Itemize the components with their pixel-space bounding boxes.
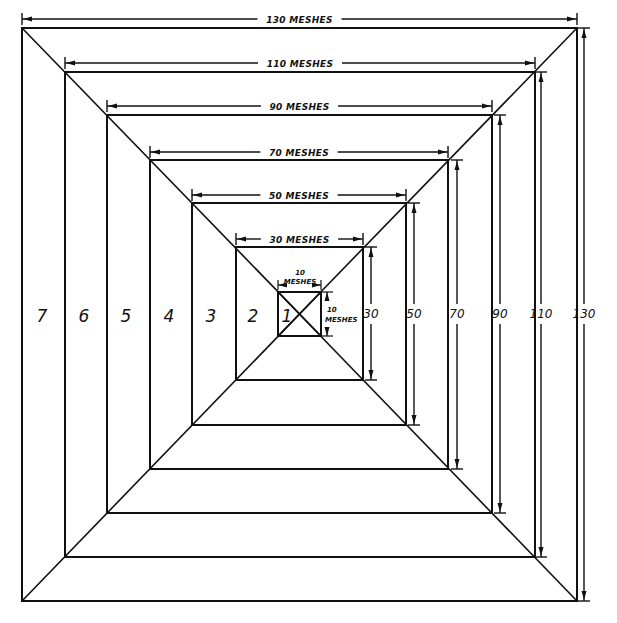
- zone-label-5: 5: [121, 306, 132, 326]
- side-dimension-label: 90: [492, 307, 508, 321]
- arrowhead-icon: [539, 547, 544, 556]
- arrowhead-icon: [353, 237, 362, 242]
- zone-label-7: 7: [37, 306, 48, 326]
- side-dimension-90: 90: [492, 115, 508, 513]
- arrowhead-icon: [23, 17, 32, 22]
- top-dimension-110: 110 MESHES: [65, 57, 535, 69]
- mesh-zones-diagram: 130 MESHES110 MESHES90 MESHES70 MESHES50…: [0, 0, 617, 623]
- side-dimension-label: 130: [573, 307, 596, 321]
- side-dimension-label: 110: [530, 307, 553, 321]
- zone-label-4: 4: [164, 306, 175, 326]
- inner-top-dim-number: 10: [295, 269, 305, 277]
- arrowhead-icon: [369, 370, 374, 379]
- zone-label-3: 3: [206, 306, 217, 326]
- top-dimension-130: 130 MESHES: [22, 13, 577, 25]
- arrowhead-icon: [498, 503, 503, 512]
- arrowhead-icon: [151, 150, 160, 155]
- side-dimension-label: 50: [406, 307, 422, 321]
- inner-side-dim-unit: MESHES: [325, 316, 357, 324]
- arrowhead-icon: [396, 193, 405, 198]
- top-width-dimensions: 130 MESHES110 MESHES90 MESHES70 MESHES50…: [22, 13, 577, 245]
- top-dimension-70: 70 MESHES: [150, 146, 448, 158]
- side-height-dimensions: 30507090110130: [363, 28, 595, 601]
- zone-number-labels: 7654321: [37, 306, 293, 326]
- top-dimension-label: 90 MESHES: [269, 102, 329, 112]
- arrowhead-icon: [412, 415, 417, 424]
- arrowhead-icon: [455, 459, 460, 468]
- arrowhead-icon: [539, 73, 544, 82]
- top-dimension-90: 90 MESHES: [107, 100, 492, 112]
- side-dimension-label: 70: [449, 307, 465, 321]
- arrowhead-icon: [525, 61, 534, 66]
- arrowhead-icon: [455, 161, 460, 170]
- inner-top-dim-unit: MESHES: [284, 278, 316, 286]
- arrowhead-icon: [438, 150, 447, 155]
- arrowhead-icon: [193, 193, 202, 198]
- top-dimension-label: 50 MESHES: [269, 191, 329, 201]
- top-dimension-label: 70 MESHES: [269, 148, 329, 158]
- arrowhead-icon: [66, 61, 75, 66]
- zone-label-1: 1: [282, 306, 293, 326]
- zone-label-6: 6: [79, 306, 90, 326]
- arrowhead-icon: [278, 283, 287, 288]
- arrowhead-icon: [498, 116, 503, 125]
- side-dimension-110: 110: [530, 72, 553, 557]
- top-dimension-30: 30 MESHES: [236, 233, 363, 245]
- top-dimension-label: 130 MESHES: [266, 15, 333, 25]
- top-dimension-label: 110 MESHES: [267, 59, 334, 69]
- arrowhead-icon: [369, 248, 374, 257]
- arrowhead-icon: [482, 104, 491, 109]
- top-dimension-label: 30 MESHES: [269, 235, 329, 245]
- diagonal-line-3: [278, 292, 577, 601]
- arrowhead-icon: [312, 283, 321, 288]
- side-dimension-70: 70: [449, 160, 465, 469]
- arrowhead-icon: [582, 591, 587, 600]
- arrowhead-icon: [325, 292, 330, 301]
- side-dimension-50: 50: [406, 203, 422, 425]
- diagonal-line-0: [22, 28, 321, 336]
- arrowhead-icon: [582, 29, 587, 38]
- arrowhead-icon: [412, 204, 417, 213]
- diagonal-line-1: [278, 28, 577, 336]
- arrowhead-icon: [108, 104, 117, 109]
- diagonal-line-2: [22, 292, 321, 601]
- arrowhead-icon: [325, 327, 330, 336]
- arrowhead-icon: [237, 237, 246, 242]
- arrowhead-icon: [567, 17, 576, 22]
- zone-label-2: 2: [248, 306, 259, 326]
- top-dimension-50: 50 MESHES: [192, 189, 406, 201]
- side-dimension-label: 30: [363, 307, 379, 321]
- side-dimension-30: 30: [363, 247, 379, 380]
- inner-side-dim-number: 10: [327, 306, 337, 314]
